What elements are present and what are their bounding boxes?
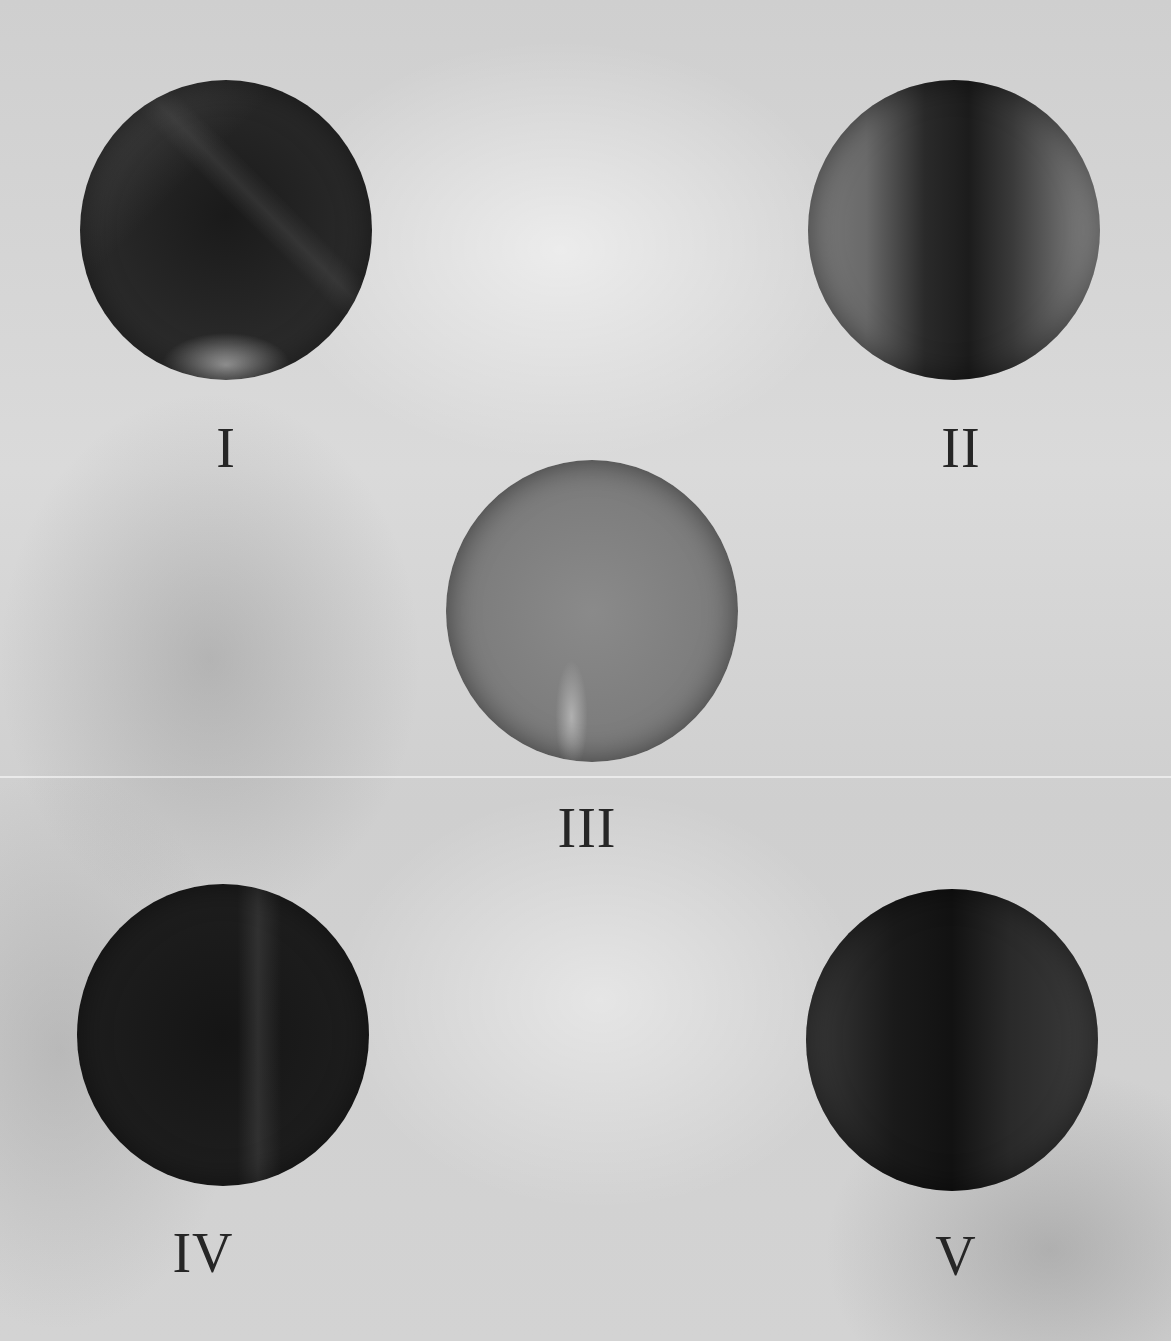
label-v: V	[856, 1228, 1056, 1284]
disc-v	[806, 889, 1098, 1191]
disc-i	[80, 80, 372, 380]
disc-iii	[446, 460, 738, 762]
label-iv: IV	[103, 1225, 303, 1281]
fold-line	[0, 776, 1171, 778]
disc-iv	[77, 884, 369, 1186]
label-iii: III	[487, 800, 687, 856]
label-i: I	[126, 420, 326, 476]
disc-ii	[808, 80, 1100, 380]
label-ii: II	[861, 420, 1061, 476]
